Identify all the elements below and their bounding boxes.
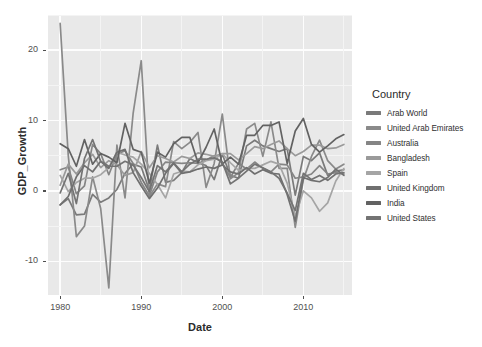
- y-tick-label: 20: [8, 44, 38, 54]
- legend-item-label: India: [387, 199, 405, 208]
- legend-title: Country: [372, 88, 482, 100]
- legend-item-list: Arab WorldUnited Arab EmiratesAustraliaB…: [366, 106, 482, 225]
- legend-color-swatch: [366, 171, 381, 175]
- plot-panel: [48, 15, 352, 295]
- legend-color-swatch: [366, 201, 381, 205]
- legend-item-label: United States: [387, 214, 436, 223]
- legend-color-swatch: [366, 186, 381, 190]
- legend-item[interactable]: India: [366, 196, 482, 210]
- y-tick-mark: [43, 50, 46, 51]
- x-tick-mark: [141, 296, 142, 299]
- x-tick-mark: [222, 296, 223, 299]
- legend-item[interactable]: Arab World: [366, 106, 482, 120]
- chart-page: 20100-10 1980199020002010 Date GDP_Growt…: [0, 0, 482, 347]
- x-tick-label: 1980: [40, 302, 80, 312]
- x-tick-label: 1990: [121, 302, 161, 312]
- series-lines: [48, 15, 352, 295]
- legend: Country Arab WorldUnited Arab EmiratesAu…: [366, 88, 482, 226]
- x-tick-label: 2010: [283, 302, 323, 312]
- y-tick-mark: [43, 261, 46, 262]
- legend-item[interactable]: Bangladesh: [366, 151, 482, 165]
- legend-item[interactable]: Spain: [366, 166, 482, 180]
- x-tick-mark: [303, 296, 304, 299]
- y-tick-label: -10: [8, 255, 38, 265]
- legend-color-swatch: [366, 111, 381, 115]
- y-axis-title: GDP_Growth: [16, 91, 28, 231]
- legend-item[interactable]: United Kingdom: [366, 181, 482, 195]
- y-tick-mark: [43, 120, 46, 121]
- x-tick-mark: [60, 296, 61, 299]
- legend-item[interactable]: United States: [366, 211, 482, 225]
- legend-color-swatch: [366, 126, 381, 130]
- y-tick-mark: [43, 190, 46, 191]
- legend-item-label: Australia: [387, 139, 418, 148]
- legend-item-label: United Kingdom: [387, 184, 445, 193]
- legend-item[interactable]: Australia: [366, 136, 482, 150]
- x-tick-label: 2000: [202, 302, 242, 312]
- legend-item-label: Spain: [387, 169, 408, 178]
- legend-item-label: Bangladesh: [387, 154, 430, 163]
- legend-item-label: Arab World: [387, 109, 427, 118]
- legend-color-swatch: [366, 156, 381, 160]
- legend-color-swatch: [366, 216, 381, 220]
- legend-item[interactable]: United Arab Emirates: [366, 121, 482, 135]
- x-axis-title: Date: [48, 321, 352, 333]
- legend-color-swatch: [366, 141, 381, 145]
- legend-item-label: United Arab Emirates: [387, 124, 463, 133]
